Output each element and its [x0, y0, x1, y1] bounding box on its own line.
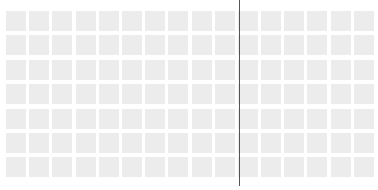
grid-tile — [29, 133, 49, 153]
grid-tile — [354, 60, 374, 80]
grid-tile — [52, 157, 72, 177]
grid-tile — [168, 11, 188, 31]
tile-grid — [6, 11, 374, 177]
grid-tile — [215, 11, 235, 31]
grid-tile — [261, 133, 281, 153]
grid-tile — [99, 84, 119, 104]
grid-tile — [331, 60, 351, 80]
grid-tile — [215, 157, 235, 177]
grid-tile — [145, 157, 165, 177]
grid-tile — [354, 84, 374, 104]
grid-tile — [192, 109, 212, 129]
grid-tile — [145, 11, 165, 31]
grid-tile — [76, 109, 96, 129]
grid-tile — [52, 60, 72, 80]
grid-tile — [168, 157, 188, 177]
grid-tile — [76, 133, 96, 153]
grid-tile — [122, 60, 142, 80]
grid-tile — [307, 109, 327, 129]
grid-tile — [99, 109, 119, 129]
grid-tile — [122, 157, 142, 177]
grid-tile — [6, 84, 26, 104]
grid-tile — [215, 109, 235, 129]
grid-tile — [29, 157, 49, 177]
grid-tile — [6, 60, 26, 80]
grid-tile — [307, 133, 327, 153]
grid-tile — [261, 109, 281, 129]
grid-tile — [52, 11, 72, 31]
grid-tile — [192, 11, 212, 31]
vertical-divider-line[interactable] — [239, 0, 240, 186]
grid-tile — [29, 60, 49, 80]
grid-tile — [261, 60, 281, 80]
grid-tile — [284, 60, 304, 80]
grid-tile — [284, 109, 304, 129]
grid-tile — [122, 11, 142, 31]
grid-tile — [354, 11, 374, 31]
grid-tile — [238, 109, 258, 129]
grid-tile — [99, 157, 119, 177]
grid-tile — [215, 133, 235, 153]
grid-tile — [192, 133, 212, 153]
grid-tile — [122, 84, 142, 104]
grid-tile — [192, 157, 212, 177]
grid-tile — [145, 133, 165, 153]
grid-tile — [99, 11, 119, 31]
grid-tile — [215, 60, 235, 80]
grid-tile — [307, 11, 327, 31]
grid-tile — [261, 35, 281, 55]
grid-tile — [168, 35, 188, 55]
grid-tile — [331, 109, 351, 129]
grid-tile — [6, 133, 26, 153]
grid-tile — [76, 60, 96, 80]
grid-tile — [168, 133, 188, 153]
grid-tile — [307, 60, 327, 80]
grid-tile — [215, 84, 235, 104]
grid-tile — [192, 84, 212, 104]
grid-tile — [145, 109, 165, 129]
grid-tile — [168, 84, 188, 104]
grid-tile — [145, 35, 165, 55]
grid-tile — [145, 60, 165, 80]
grid-tile — [76, 35, 96, 55]
grid-tile — [354, 157, 374, 177]
grid-tile — [331, 11, 351, 31]
grid-tile — [238, 60, 258, 80]
grid-tile — [52, 109, 72, 129]
grid-tile — [261, 157, 281, 177]
grid-tile — [29, 84, 49, 104]
grid-tile — [331, 133, 351, 153]
grid-tile — [29, 35, 49, 55]
grid-tile — [192, 35, 212, 55]
grid-tile — [354, 35, 374, 55]
grid-tile — [331, 157, 351, 177]
grid-tile — [238, 35, 258, 55]
grid-tile — [284, 133, 304, 153]
grid-tile — [76, 11, 96, 31]
grid-tile — [168, 109, 188, 129]
grid-tile — [52, 133, 72, 153]
grid-tile — [284, 157, 304, 177]
grid-tile — [6, 35, 26, 55]
grid-tile — [29, 11, 49, 31]
grid-tile — [307, 84, 327, 104]
grid-tile — [331, 84, 351, 104]
grid-tile — [284, 11, 304, 31]
grid-tile — [99, 60, 119, 80]
grid-tile — [261, 84, 281, 104]
grid-tile — [192, 60, 212, 80]
grid-tile — [52, 35, 72, 55]
grid-tile — [238, 84, 258, 104]
grid-tile — [122, 109, 142, 129]
grid-tile — [238, 133, 258, 153]
grid-tile — [52, 84, 72, 104]
grid-tile — [354, 109, 374, 129]
grid-tile — [122, 35, 142, 55]
grid-tile — [122, 133, 142, 153]
grid-tile — [261, 11, 281, 31]
grid-tile — [6, 157, 26, 177]
grid-tile — [307, 157, 327, 177]
grid-tile — [284, 35, 304, 55]
grid-tile — [354, 133, 374, 153]
grid-tile — [238, 157, 258, 177]
